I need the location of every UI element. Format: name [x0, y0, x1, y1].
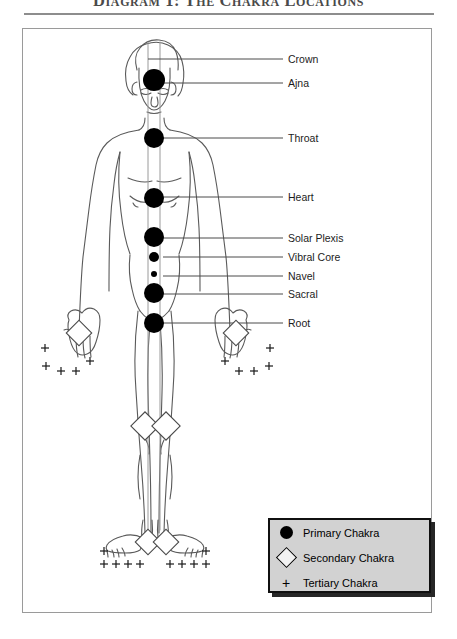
label-root: Root: [288, 318, 310, 329]
legend-box: Primary Chakra Secondary Chakra + Tertia…: [268, 518, 431, 593]
label-sacral: Sacral: [288, 289, 318, 300]
legend-label-tertiary: Tertiary Chakra: [303, 577, 378, 589]
label-heart: Heart: [288, 192, 314, 203]
legend-row-tertiary: + Tertiary Chakra: [270, 570, 429, 595]
title-divider: [24, 13, 434, 15]
label-throat: Throat: [288, 133, 318, 144]
label-vibral-core: Vibral Core: [288, 252, 340, 263]
legend-label-primary: Primary Chakra: [303, 527, 379, 539]
label-ajna: Ajna: [288, 78, 309, 89]
plus-icon: +: [275, 578, 297, 588]
label-solar-plexis: Solar Plexis: [288, 233, 343, 244]
filled-circle-icon: [275, 526, 297, 539]
diamond-icon: [275, 550, 297, 565]
page-title: Diagram 1: The Chakra Locations: [0, 0, 457, 11]
title-container: Diagram 1: The Chakra Locations: [0, 0, 457, 13]
legend-row-secondary: Secondary Chakra: [270, 545, 429, 570]
label-crown: Crown: [288, 54, 318, 65]
legend-label-secondary: Secondary Chakra: [303, 552, 394, 564]
label-navel: Navel: [288, 271, 315, 282]
legend-row-primary: Primary Chakra: [270, 520, 429, 545]
